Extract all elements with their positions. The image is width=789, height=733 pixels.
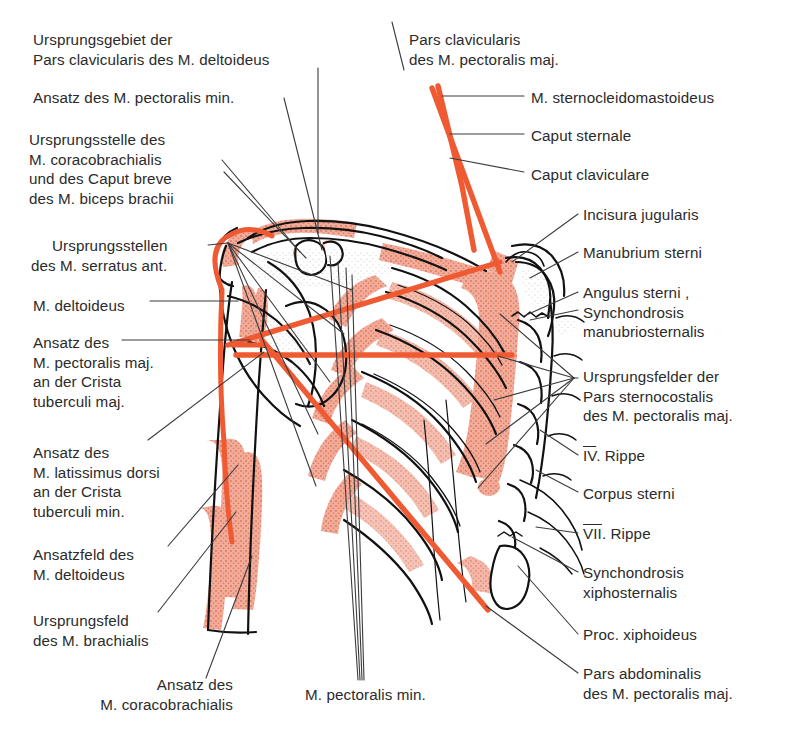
label-proc-xiphoideus: Proc. xiphoideus bbox=[583, 625, 697, 645]
label-ansatz-pectoralis-min: Ansatz des M. pectoralis min. bbox=[33, 88, 234, 108]
label-rippe-iv: IV. Rippe bbox=[583, 446, 645, 466]
label-m-pectoralis-min: M. pectoralis min. bbox=[305, 685, 426, 705]
label-m-sternocleidomastoideus: M. sternocleidomastoideus bbox=[531, 88, 714, 108]
label-ursprungsfelder-pars-sternocostalis: Ursprungsfelder derPars sternocostalisde… bbox=[583, 367, 733, 426]
label-caput-sternale: Caput sternale bbox=[531, 126, 631, 146]
label-ansatz-latissimus-dorsi-crista-tuberculi-min: Ansatz desM. latissimus dorsian der Cris… bbox=[33, 443, 160, 521]
label-rippe-vii: VII. Rippe bbox=[583, 524, 651, 544]
label-pars-clavicularis-pectoralis-maj: Pars clavicularisdes M. pectoralis maj. bbox=[409, 30, 559, 69]
label-caput-claviculare: Caput claviculare bbox=[531, 165, 649, 185]
label-corpus-sterni: Corpus sterni bbox=[583, 484, 675, 504]
label-ursprungsgebiet-pars-clavicularis-deltoideus: Ursprungsgebiet derPars clavicularis des… bbox=[33, 30, 269, 69]
label-ursprungsstelle-coracobrachialis-biceps: Ursprungsstelle desM. coracobrachialisun… bbox=[29, 130, 174, 208]
label-angulus-sterni-synchondrosis-manubriosternalis: Angulus sterni ,Synchondrosismanubrioste… bbox=[583, 283, 705, 342]
label-ansatz-pectoralis-maj-crista-tuberculi-maj: Ansatz desM. pectoralis maj.an der Crist… bbox=[33, 333, 154, 411]
label-manubrium-sterni: Manubrium sterni bbox=[583, 243, 702, 263]
label-ursprungsfeld-brachialis: Ursprungsfelddes M. brachialis bbox=[33, 611, 149, 650]
label-pars-abdominalis-pectoralis-maj: Pars abdominalisdes M. pectoralis maj. bbox=[583, 664, 733, 703]
label-m-deltoideus: M. deltoideus bbox=[33, 296, 125, 316]
label-ursprungsstellen-serratus-ant: Ursprungsstellendes M. serratus ant. bbox=[52, 236, 168, 275]
label-ansatz-coracobrachialis: Ansatz desM. coracobrachialis bbox=[23, 675, 233, 714]
label-ansatzfeld-deltoideus: Ansatzfeld desM. deltoideus bbox=[33, 545, 134, 584]
anatomy-figure-page: Ursprungsgebiet derPars clavicularis des… bbox=[0, 0, 789, 733]
label-incisura-jugularis: Incisura jugularis bbox=[583, 205, 699, 225]
label-synchondrosis-xiphosternalis: Synchondrosisxiphosternalis bbox=[583, 563, 684, 602]
